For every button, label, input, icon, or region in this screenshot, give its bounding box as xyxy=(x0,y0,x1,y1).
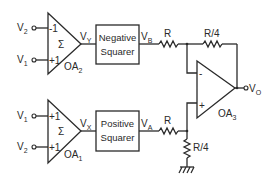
svg-text:R: R xyxy=(164,28,171,39)
output-terminal-icon xyxy=(244,86,248,90)
svg-text:Squarer: Squarer xyxy=(101,46,135,57)
resistor-r-top: R xyxy=(159,28,178,47)
oa2-gain-top: -1 xyxy=(49,23,58,34)
svg-text:R: R xyxy=(164,115,171,126)
opamp-oa3: - + OA3 xyxy=(197,61,236,121)
svg-text:R/4: R/4 xyxy=(204,28,220,39)
oa2-input-v1-label: V1 xyxy=(17,54,28,67)
vo-label: VO xyxy=(249,83,262,96)
oa1-gain-top: +1 xyxy=(49,111,61,122)
oa1-label: OA1 xyxy=(64,149,82,162)
oa1-sigma-symbol: Σ xyxy=(58,126,64,137)
oa3-inverting-sign: - xyxy=(199,68,202,79)
oa2-sigma-symbol: Σ xyxy=(58,39,64,50)
oa2-input-v1: V1 +1 xyxy=(17,54,61,67)
oa1-input-v2: V2 +1 xyxy=(17,141,61,154)
negative-squarer-block: Negative Squarer xyxy=(96,25,139,64)
positive-squarer-block: Positive Squarer xyxy=(96,111,139,151)
svg-text:R/4: R/4 xyxy=(193,142,209,153)
va-label: VA xyxy=(141,118,153,131)
vy-label: VY xyxy=(80,31,92,44)
oa1-input-v1: V1 +1 xyxy=(17,110,61,123)
oa2-gain-bottom: +1 xyxy=(49,55,61,66)
svg-text:Negative: Negative xyxy=(99,32,137,43)
circuit-diagram: Σ OA2 V2 -1 V1 +1 VY Negative Squarer VB… xyxy=(0,0,271,191)
oa2-input-v2: V2 -1 xyxy=(17,22,58,35)
opamp-oa1: Σ OA1 xyxy=(48,100,82,163)
resistor-r-bottom: R xyxy=(159,115,178,134)
terminal-icon xyxy=(32,114,36,118)
oa1-input-v1-label: V1 xyxy=(17,110,28,123)
resistor-r4-feedback: R/4 xyxy=(203,28,222,47)
oa3-noninverting-sign: + xyxy=(199,100,205,111)
resistor-r4-ground: R/4 xyxy=(184,139,209,158)
oa1-input-v2-label: V2 xyxy=(17,141,28,154)
oa1-gain-bottom: +1 xyxy=(49,142,61,153)
oa3-label: OA3 xyxy=(218,108,236,121)
terminal-icon xyxy=(32,58,36,62)
svg-text:Squarer: Squarer xyxy=(101,132,135,143)
oa2-label: OA2 xyxy=(64,61,82,74)
oa2-input-v2-label: V2 xyxy=(17,22,28,35)
svg-text:Positive: Positive xyxy=(101,118,134,129)
vb-label: VB xyxy=(141,31,153,44)
terminal-icon xyxy=(32,145,36,149)
ground-icon xyxy=(179,167,194,173)
terminal-icon xyxy=(32,26,36,30)
vx-label: VX xyxy=(80,118,92,131)
